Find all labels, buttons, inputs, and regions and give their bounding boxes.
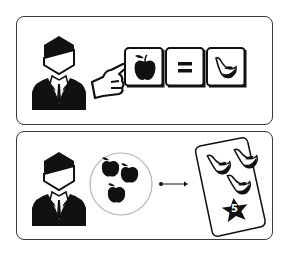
trade-panel: 5: [16, 131, 273, 240]
equals-icon: [178, 62, 192, 66]
businessman-icon: [30, 34, 88, 110]
arrow-right-icon: [158, 180, 188, 188]
tile-equals: [165, 47, 207, 89]
tile-apple: [124, 47, 166, 89]
exchange-rate-panel: [16, 16, 273, 125]
star-value: 5: [231, 203, 238, 214]
businessman-icon: [30, 150, 88, 226]
apples-group-icon: [88, 144, 154, 224]
tile-banana: [206, 47, 248, 89]
banana-card: 5: [189, 136, 273, 238]
